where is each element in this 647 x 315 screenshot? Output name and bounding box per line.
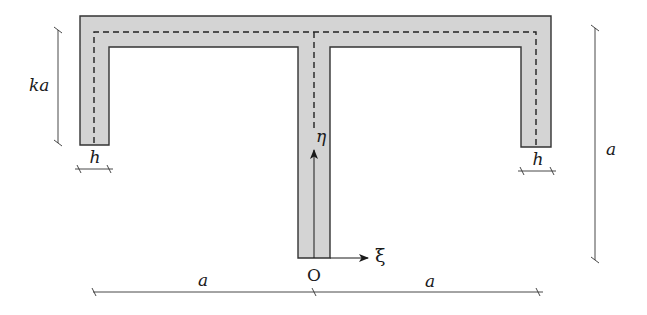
section-diagram: η ξ O ka a h h a a [0,0,647,315]
origin-label: O [307,265,321,285]
dimension-h-right-label: h [533,149,544,169]
dimension-width-right-label: a [425,271,435,291]
dimension-ka [54,27,62,146]
dimension-ka-label: ka [29,75,49,95]
eta-axis-label: η [316,126,327,146]
dimension-height-a [591,25,599,263]
dimension-h-left-label: h [90,147,101,167]
dimension-height-a-label: a [606,139,616,159]
dimension-width [92,288,543,296]
dimension-width-left-label: a [198,270,208,290]
xi-axis-label: ξ [375,244,385,266]
